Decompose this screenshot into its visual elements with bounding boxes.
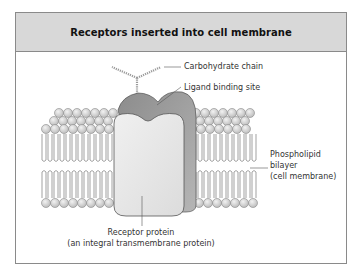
receptor-protein [114,114,184,217]
label-receptor-2: (an integral transmembrane protein) [0,239,282,249]
label-phospholipid-1: Phospholipid [270,150,321,160]
label-phospholipid-2: bilayer [270,161,297,171]
carbohydrate-chain [112,67,161,94]
label-phospholipid-3: (cell membrane) [270,172,336,182]
label-ligand-binding-site: Ligand binding site [184,83,260,93]
left-bilayer [42,109,118,208]
label-carbohydrate-chain: Carbohydrate chain [184,62,263,72]
membrane-diagram [0,0,361,280]
label-receptor-1: Receptor protein [0,228,282,238]
